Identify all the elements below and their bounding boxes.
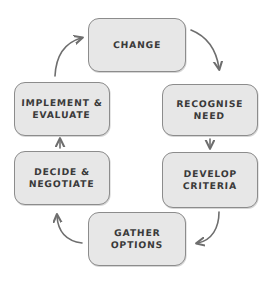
node-decide-negotiate-label: DECIDE & NEGOTIATE — [26, 166, 99, 191]
node-develop-criteria-label: DEVELOP CRITERIA — [179, 168, 240, 193]
node-change[interactable]: CHANGE — [88, 18, 186, 72]
node-implement-evaluate[interactable]: IMPLEMENT & EVALUATE — [14, 82, 110, 136]
cycle-diagram: CHANGE RECOGNISE NEED DEVELOP CRITERIA G… — [0, 0, 274, 285]
node-decide-negotiate[interactable]: DECIDE & NEGOTIATE — [14, 151, 110, 205]
node-recognise-need-label: RECOGNISE NEED — [173, 98, 247, 123]
node-develop-criteria[interactable]: DEVELOP CRITERIA — [162, 152, 258, 208]
node-gather-options-label: GATHER OPTIONS — [107, 227, 166, 252]
node-change-label: CHANGE — [110, 39, 165, 51]
arrow-change-to-recognise — [191, 30, 219, 68]
arrow-gather-to-decide — [57, 216, 82, 243]
node-gather-options[interactable]: GATHER OPTIONS — [88, 212, 186, 266]
node-implement-evaluate-label: IMPLEMENT & EVALUATE — [18, 97, 106, 122]
arrow-develop-to-gather — [198, 212, 219, 243]
arrow-implement-to-change — [55, 38, 81, 76]
node-recognise-need[interactable]: RECOGNISE NEED — [162, 84, 258, 136]
